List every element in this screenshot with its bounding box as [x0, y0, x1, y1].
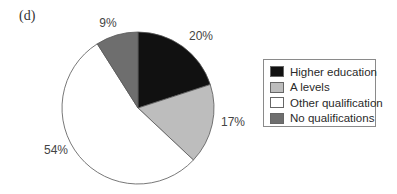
label-a-levels: 17% [221, 115, 245, 129]
legend-item-higher-education: Higher education [270, 64, 375, 80]
legend-item-other-qualification: Other qualification [270, 95, 375, 111]
legend: Higher education A levels Other qualific… [263, 59, 376, 127]
legend-label: Higher education [290, 66, 377, 78]
legend-item-no-qualifications: No qualifications [270, 111, 375, 127]
swatch-no-qualifications [270, 113, 284, 124]
legend-label: No qualifications [290, 112, 374, 124]
pie-slices [62, 32, 214, 184]
label-no-qualifications: 9% [99, 16, 116, 30]
swatch-other-qualification [270, 97, 284, 108]
legend-item-a-levels: A levels [270, 80, 375, 96]
swatch-higher-education [270, 66, 284, 77]
label-higher-education: 20% [189, 29, 213, 43]
legend-label: Other qualification [290, 97, 383, 109]
legend-label: A levels [290, 81, 330, 93]
label-other-qualification: 54% [44, 143, 68, 157]
swatch-a-levels [270, 82, 284, 93]
